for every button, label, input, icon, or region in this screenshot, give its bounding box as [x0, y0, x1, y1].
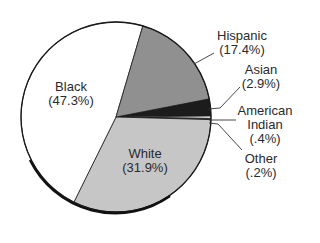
- label-other: Other (.2%): [238, 152, 284, 180]
- label-other-name: Other: [238, 152, 284, 166]
- label-white-value: (31.9%): [117, 161, 173, 175]
- label-american-indian: American Indian (.4%): [233, 104, 297, 146]
- label-white-name: White: [117, 147, 173, 161]
- label-black: Black (47.3%): [45, 80, 97, 108]
- label-hispanic-value: (17.4%): [210, 43, 274, 57]
- label-other-value: (.2%): [238, 166, 284, 180]
- label-white: White (31.9%): [117, 147, 173, 175]
- label-asian: Asian (2.9%): [238, 63, 284, 91]
- label-american-indian-name1: American: [233, 104, 297, 118]
- label-black-value: (47.3%): [45, 94, 97, 108]
- label-american-indian-name2: Indian: [233, 118, 297, 132]
- label-hispanic: Hispanic (17.4%): [210, 29, 274, 57]
- label-asian-value: (2.9%): [238, 77, 284, 91]
- pie-slices: [21, 22, 211, 212]
- label-black-name: Black: [45, 80, 97, 94]
- label-hispanic-name: Hispanic: [210, 29, 274, 43]
- label-american-indian-value: (.4%): [233, 132, 297, 146]
- label-asian-name: Asian: [238, 63, 284, 77]
